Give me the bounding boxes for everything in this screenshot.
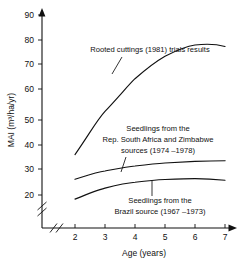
- x-axis-title: Age (years): [122, 248, 166, 258]
- x-tick-label-6: 6: [193, 232, 198, 242]
- x-tick-label-2: 2: [73, 232, 78, 242]
- annotation-rooted-cuttings-line-1: Rooted cuttings (1981) trials results: [90, 45, 210, 54]
- x-axis-arrowhead: [229, 225, 238, 232]
- curve-rsa-zimbabwe-seedlings: [75, 161, 225, 180]
- y-tick-label-80: 80: [25, 35, 35, 45]
- x-tick-label-3: 3: [103, 232, 108, 242]
- x-axis-ticks: 2 3 4 5 6 7: [73, 224, 228, 242]
- mai-vs-age-line-chart: 90 80 70 60 50 40 30 20 2 3 4 5 6 7 Age …: [0, 0, 248, 262]
- annotation-rsa-zimbabwe-line-2: Rep. South Africa and Zimbabwe: [102, 135, 213, 144]
- x-tick-label-5: 5: [163, 232, 168, 242]
- y-axis-ticks: 90 80 70 60 50 40 30 20: [25, 10, 42, 200]
- y-tick-label-40: 40: [25, 140, 35, 150]
- y-tick-label-50: 50: [25, 115, 35, 125]
- annotation-rsa-zimbabwe-line-3: sources (1974 –1978): [121, 146, 195, 155]
- leader-rsa-zimbabwe-seedlings: [121, 157, 126, 172]
- y-axis-title: MAI (m³/ha/yr): [6, 93, 16, 147]
- x-tick-label-4: 4: [133, 232, 138, 242]
- annotation-rooted-cuttings: Rooted cuttings (1981) trials results: [90, 45, 210, 54]
- x-tick-label-7: 7: [223, 232, 228, 242]
- data-curves: [75, 44, 225, 199]
- annotation-rsa-zimbabwe-seedlings: Seedlings from the Rep. South Africa and…: [102, 124, 213, 155]
- annotation-brazil-line-2: Brazil source (1967 –1973): [114, 207, 206, 216]
- annotation-brazil-line-1: Seedlings from the: [128, 196, 191, 205]
- annotation-brazil-seedlings: Seedlings from the Brazil source (1967 –…: [114, 196, 206, 216]
- leader-rooted-cuttings: [112, 57, 122, 74]
- y-tick-label-20: 20: [25, 190, 35, 200]
- y-tick-label-70: 70: [25, 59, 35, 69]
- annotation-rsa-zimbabwe-line-1: Seedlings from the: [126, 124, 189, 133]
- y-tick-label-60: 60: [25, 84, 35, 94]
- y-tick-label-90: 90: [25, 10, 35, 20]
- chart-figure: 90 80 70 60 50 40 30 20 2 3 4 5 6 7 Age …: [0, 0, 248, 262]
- y-tick-label-30: 30: [25, 164, 35, 174]
